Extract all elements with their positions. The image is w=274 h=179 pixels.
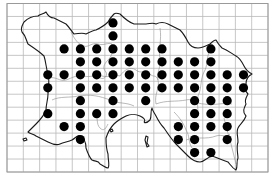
occurrence-dot: [206, 109, 215, 118]
occurrence-dot: [141, 96, 150, 105]
occurrence-dot: [76, 70, 85, 79]
islet-elizabeth-castle: [145, 136, 149, 147]
occurrence-dot: [43, 83, 52, 92]
occurrence-dot: [206, 122, 215, 131]
occurrence-dot: [157, 44, 166, 53]
occurrence-dot: [60, 70, 69, 79]
occurrence-dot: [157, 83, 166, 92]
occurrence-dot: [206, 96, 215, 105]
occurrence-dot: [190, 122, 199, 131]
occurrence-dot: [239, 70, 248, 79]
distribution-map: [0, 0, 274, 179]
occurrence-dot: [223, 70, 232, 79]
occurrence-dot: [76, 135, 85, 144]
occurrence-dot: [206, 83, 215, 92]
occurrence-dot: [92, 57, 101, 66]
occurrence-dot: [174, 122, 183, 131]
occurrence-dot: [76, 83, 85, 92]
occurrence-dot: [206, 44, 215, 53]
occurrence-dot: [206, 57, 215, 66]
occurrence-dot: [190, 109, 199, 118]
occurrence-dot: [92, 83, 101, 92]
occurrence-dot: [174, 57, 183, 66]
occurrence-dot: [157, 70, 166, 79]
occurrence-dot: [206, 70, 215, 79]
occurrence-dot: [190, 57, 199, 66]
occurrence-dot: [108, 70, 117, 79]
occurrence-dot: [76, 122, 85, 131]
occurrence-dot: [76, 44, 85, 53]
occurrence-dot: [223, 135, 232, 144]
occurrence-dot: [157, 57, 166, 66]
occurrence-dot: [125, 44, 134, 53]
occurrence-dot: [141, 57, 150, 66]
occurrence-dot: [174, 70, 183, 79]
occurrence-dot: [60, 44, 69, 53]
occurrence-dot: [141, 70, 150, 79]
occurrence-dot: [141, 83, 150, 92]
occurrence-dot: [174, 83, 183, 92]
occurrence-dot: [108, 83, 117, 92]
occurrence-dot: [223, 122, 232, 131]
occurrence-dot: [108, 44, 117, 53]
occurrence-dot: [141, 44, 150, 53]
occurrence-dot: [125, 57, 134, 66]
occurrence-dot: [125, 83, 134, 92]
islet-st-aubin: [110, 129, 113, 132]
occurrence-dot: [60, 122, 69, 131]
occurrence-dot: [108, 31, 117, 40]
islet-west: [23, 138, 27, 141]
occurrence-dot: [76, 96, 85, 105]
occurrence-dot: [190, 83, 199, 92]
occurrence-dot: [190, 96, 199, 105]
occurrence-dot: [43, 109, 52, 118]
occurrence-dot: [223, 96, 232, 105]
occurrence-dot: [223, 109, 232, 118]
occurrence-dot: [190, 148, 199, 157]
occurrence-dot: [174, 135, 183, 144]
occurrence-dot: [190, 135, 199, 144]
occurrence-dot: [92, 44, 101, 53]
occurrence-dot: [239, 83, 248, 92]
occurrence-dot: [108, 96, 117, 105]
occurrence-dot: [190, 70, 199, 79]
occurrence-dot: [43, 70, 52, 79]
occurrence-dot: [108, 57, 117, 66]
occurrence-dot: [125, 70, 134, 79]
occurrence-dot: [76, 109, 85, 118]
occurrence-dot: [92, 70, 101, 79]
occurrence-dot: [92, 109, 101, 118]
occurrence-dot: [223, 83, 232, 92]
occurrence-dot: [76, 57, 85, 66]
occurrence-dot: [206, 148, 215, 157]
occurrence-dot: [108, 109, 117, 118]
occurrence-dot: [108, 18, 117, 27]
